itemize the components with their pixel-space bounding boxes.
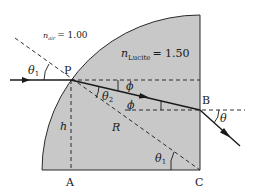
- point-P-label: P: [64, 64, 72, 77]
- phi-lower-label: ϕ: [127, 99, 135, 112]
- incident-ray-arrow: [22, 77, 30, 83]
- n-air-symbol: nair= 1.00: [43, 30, 88, 41]
- h-label: h: [60, 120, 67, 133]
- point-A-label: A: [65, 176, 75, 189]
- theta-exit-arc: [214, 110, 219, 123]
- theta1-incident-arc: [44, 64, 49, 80]
- phi-upper-label: ϕ: [126, 80, 134, 93]
- point-B-label: B: [202, 94, 210, 107]
- theta-exit-label: θ: [220, 112, 227, 125]
- R-label: R: [111, 121, 120, 134]
- refraction-diagram: nair= 1.00 nLucite= 1.50 P B A C θ1 θ2 ϕ…: [0, 0, 255, 195]
- theta1-incident-label: θ1: [28, 64, 39, 78]
- point-C-label: C: [195, 176, 203, 189]
